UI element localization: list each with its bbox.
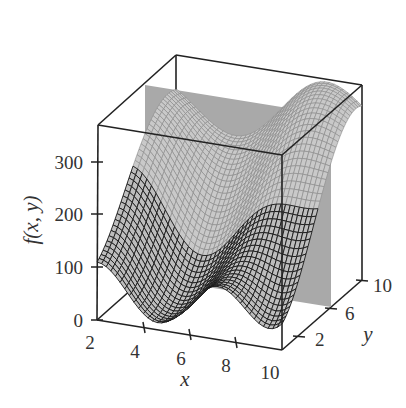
x-tick-2: 2 bbox=[85, 332, 95, 353]
y-axis-label: y bbox=[361, 322, 373, 346]
z-tick-200: 200 bbox=[55, 204, 84, 225]
y-tick-10: 10 bbox=[373, 275, 392, 296]
x-tick-6: 6 bbox=[176, 348, 186, 369]
surface-plot: 0 100 200 300 2 4 6 8 10 x 2 6 10 y f(x,… bbox=[0, 0, 406, 408]
x-tick-8: 8 bbox=[221, 355, 231, 376]
z-tick-300: 300 bbox=[55, 152, 84, 173]
x-axis-label: x bbox=[179, 367, 190, 391]
y-tick-2: 2 bbox=[315, 329, 325, 350]
z-tick-100: 100 bbox=[55, 257, 84, 278]
x-tick-10: 10 bbox=[261, 362, 280, 383]
x-axis-ticks bbox=[143, 322, 237, 348]
z-tick-0: 0 bbox=[74, 310, 84, 331]
y-tick-6: 6 bbox=[345, 303, 355, 324]
x-tick-4: 4 bbox=[130, 341, 140, 362]
z-axis-label: f(x, y) bbox=[19, 196, 43, 245]
